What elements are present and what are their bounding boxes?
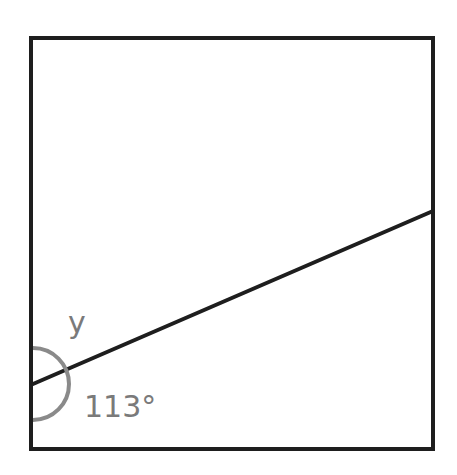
square-outline	[31, 38, 433, 449]
transversal-line	[33, 211, 433, 384]
known-angle-label: 113°	[84, 389, 156, 424]
angle-arc	[33, 348, 69, 420]
unknown-angle-label: y	[68, 305, 86, 340]
angle-diagram: y 113°	[0, 0, 457, 475]
